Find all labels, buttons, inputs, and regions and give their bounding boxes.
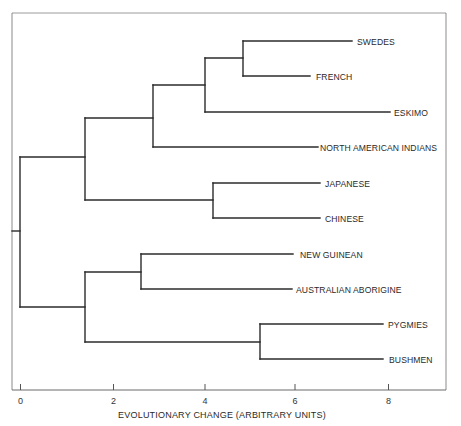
leaf-label-new-guinean: NEW GUINEAN: [300, 250, 363, 260]
x-tick-label-8: 8: [386, 396, 391, 406]
x-tick-label-2: 2: [111, 396, 116, 406]
leaf-label-japanese: JAPANESE: [325, 179, 370, 189]
x-tick-label-4: 4: [202, 396, 207, 406]
leaf-label-bushmen: BUSHMEN: [389, 355, 433, 365]
leaf-label-eskimo: ESKIMO: [394, 108, 428, 118]
leaf-label-swedes: SWEDES: [357, 37, 395, 47]
x-tick-label-6: 6: [292, 396, 297, 406]
plot-frame: [12, 13, 446, 390]
dendrogram-branches: [12, 41, 390, 359]
leaf-label-australian-aborigine: AUSTRALIAN ABORIGINE: [296, 285, 402, 295]
x-tick-label-0: 0: [18, 396, 23, 406]
leaf-labels: SWEDES FRENCH ESKIMO NORTH AMERICAN INDI…: [296, 37, 437, 365]
leaf-label-chinese: CHINESE: [325, 214, 364, 224]
x-axis-title: EVOLUTIONARY CHANGE (ARBITRARY UNITS): [118, 410, 326, 420]
dendrogram-figure: SWEDES FRENCH ESKIMO NORTH AMERICAN INDI…: [0, 0, 461, 426]
leaf-label-pygmies: PYGMIES: [388, 320, 428, 330]
x-axis: 0 2 4 6 8 EVOLUTIONARY CHANGE (ARBITRARY…: [18, 384, 391, 420]
leaf-label-french: FRENCH: [316, 72, 352, 82]
leaf-label-north-american-indians: NORTH AMERICAN INDIANS: [320, 143, 437, 153]
